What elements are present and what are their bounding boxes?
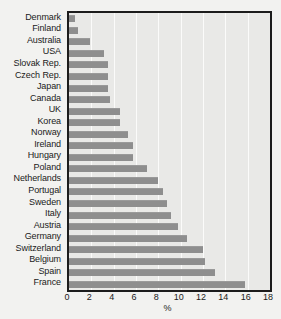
bar	[69, 223, 178, 230]
bar	[69, 73, 108, 80]
category-label: Belgium	[0, 253, 64, 265]
category-label: Slovak Rep.	[0, 57, 64, 69]
category-label: Poland	[0, 161, 64, 173]
category-label: Korea	[0, 115, 64, 127]
x-tick-label: 6	[131, 292, 136, 303]
x-tick-label: 4	[109, 292, 114, 303]
bar	[69, 85, 108, 92]
bar	[69, 165, 147, 172]
category-label: Sweden	[0, 196, 64, 208]
bar	[69, 108, 120, 115]
plot-area	[67, 11, 272, 292]
bar	[69, 119, 120, 126]
category-label: Ireland	[0, 138, 64, 150]
bar-row	[69, 140, 270, 152]
bar-row	[69, 36, 270, 48]
bar	[69, 96, 110, 103]
bar	[69, 38, 90, 45]
bar-row	[69, 152, 270, 164]
category-label: Spain	[0, 265, 64, 277]
bar	[69, 61, 108, 68]
category-label: Austria	[0, 219, 64, 231]
bar-row	[69, 267, 270, 279]
category-label: Italy	[0, 207, 64, 219]
bar-chart: Denmark Finland Australia USA Slovak Rep…	[0, 0, 281, 319]
bar	[69, 154, 133, 161]
category-label: Portugal	[0, 184, 64, 196]
bar	[69, 281, 245, 288]
category-label: Netherlands	[0, 173, 64, 185]
bar-row	[69, 163, 270, 175]
category-label: Czech Rep.	[0, 69, 64, 81]
bar-row	[69, 105, 270, 117]
bar	[69, 269, 215, 276]
bar-row	[69, 117, 270, 129]
bar-row	[69, 59, 270, 71]
bar-row	[69, 25, 270, 37]
x-tick-label: 14	[218, 292, 228, 303]
category-label: Australia	[0, 34, 64, 46]
bar-row	[69, 255, 270, 267]
bar	[69, 258, 205, 265]
bar	[69, 188, 163, 195]
x-tick-label: 0	[64, 292, 69, 303]
category-label: Switzerland	[0, 242, 64, 254]
bar-row	[69, 175, 270, 187]
x-tick-label: 8	[154, 292, 159, 303]
bar	[69, 50, 104, 57]
bar	[69, 246, 203, 253]
bar	[69, 15, 75, 22]
x-tick-label: 10	[174, 292, 184, 303]
x-tick-label: 16	[241, 292, 251, 303]
bar	[69, 212, 171, 219]
bar-row	[69, 209, 270, 221]
category-label: Norway	[0, 126, 64, 138]
category-label: Japan	[0, 80, 64, 92]
bar-row	[69, 71, 270, 83]
bar-series	[69, 13, 270, 290]
bar-row	[69, 82, 270, 94]
bar	[69, 142, 133, 149]
bar-row	[69, 48, 270, 60]
category-label: Canada	[0, 92, 64, 104]
bar-row	[69, 94, 270, 106]
bar-row	[69, 244, 270, 256]
bar	[69, 131, 128, 138]
bar-row	[69, 221, 270, 233]
bar-row	[69, 186, 270, 198]
bar	[69, 177, 158, 184]
x-axis-title: %	[67, 303, 268, 314]
category-label: USA	[0, 46, 64, 58]
category-label: UK	[0, 103, 64, 115]
x-tick-label: 2	[87, 292, 92, 303]
category-label: Germany	[0, 230, 64, 242]
category-label: Finland	[0, 23, 64, 35]
bar-row	[69, 128, 270, 140]
bar	[69, 235, 187, 242]
bar-row	[69, 279, 270, 290]
bar-row	[69, 13, 270, 25]
x-tick-label: 18	[263, 292, 273, 303]
bar	[69, 200, 167, 207]
category-axis-labels: Denmark Finland Australia USA Slovak Rep…	[0, 11, 64, 288]
category-label: France	[0, 277, 64, 289]
x-tick-label: 12	[196, 292, 206, 303]
bar	[69, 27, 78, 34]
bar-row	[69, 198, 270, 210]
bar-row	[69, 232, 270, 244]
category-label: Hungary	[0, 150, 64, 162]
category-label: Denmark	[0, 11, 64, 23]
